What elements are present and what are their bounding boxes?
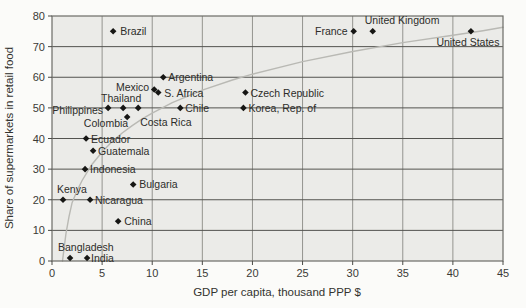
point-label-china: China	[124, 215, 152, 227]
point-label-thailand: Thailand	[101, 92, 141, 104]
x-tick-label: 25	[296, 267, 308, 279]
point-label-colombia: Colombia	[84, 117, 129, 129]
point-label-united-kingdom: United Kingdom	[365, 14, 440, 26]
point-label-india: India	[91, 252, 114, 264]
x-tick-label: 5	[99, 267, 105, 279]
y-axis-title: Share of supermarkets in retail food	[3, 47, 15, 229]
y-tick-label: 30	[33, 163, 45, 175]
x-tick-label: 45	[497, 267, 509, 279]
point-label-kenya: Kenya	[57, 183, 87, 195]
x-tick-label: 10	[146, 267, 158, 279]
point-label-brazil: Brazil	[120, 25, 146, 37]
point-label-france: France	[315, 25, 348, 37]
y-tick-label: 60	[33, 71, 45, 83]
x-tick-label: 15	[196, 267, 208, 279]
y-tick-label: 20	[33, 194, 45, 206]
point-label-korea-rep-of: Korea, Rep. of	[248, 102, 316, 114]
point-label-ecuador: Ecuador	[91, 133, 131, 145]
point-label-bulgaria: Bulgaria	[139, 178, 178, 190]
x-tick-label: 30	[347, 267, 359, 279]
plot-layer: 05101520253035404501020304050607080Brazi…	[33, 10, 509, 279]
point-label-united-states: United States	[436, 36, 499, 48]
point-label-costa-rica: Costa Rica	[140, 116, 192, 128]
point-label-s-africa: S. Africa	[164, 87, 203, 99]
point-label-mexico: Mexico	[116, 81, 149, 93]
x-tick-label: 0	[49, 267, 55, 279]
x-axis-title: GDP per capita, thousand PPP $	[193, 286, 361, 298]
y-tick-label: 40	[33, 133, 45, 145]
point-label-czech-republic: Czech Republic	[250, 87, 324, 99]
point-label-nicaragua: Nicaragua	[95, 194, 143, 206]
point-label-argentina: Argentina	[168, 71, 213, 83]
y-tick-label: 80	[33, 10, 45, 22]
supermarket-share-vs-gdp-chart: 05101520253035404501020304050607080Brazi…	[0, 0, 526, 308]
point-label-chile: Chile	[185, 102, 209, 114]
scatter-chart-figure: 05101520253035404501020304050607080Brazi…	[0, 0, 526, 308]
point-label-philippines: Philippines	[52, 104, 103, 116]
y-tick-label: 70	[33, 41, 45, 53]
x-tick-label: 20	[246, 267, 258, 279]
point-label-indonesia: Indonesia	[90, 163, 136, 175]
y-tick-label: 10	[33, 224, 45, 236]
y-tick-label: 0	[39, 255, 45, 267]
x-tick-label: 40	[447, 267, 459, 279]
x-tick-label: 35	[397, 267, 409, 279]
point-label-guatemala: Guatemala	[98, 145, 150, 157]
y-tick-label: 50	[33, 102, 45, 114]
